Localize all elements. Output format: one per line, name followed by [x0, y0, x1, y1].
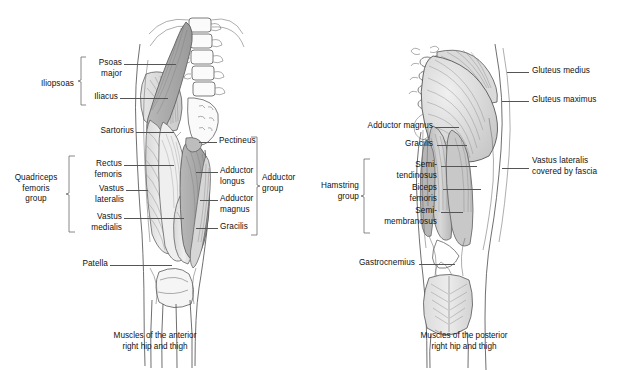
label-gluteus-medius: Gluteus medius [532, 66, 618, 77]
label-vastus-lateralis-fascia: Vastus lateralis covered by fascia [532, 156, 619, 177]
label-gracilis: Gracilis [220, 222, 268, 233]
figure-anterior-hip-thigh: Iliopsoas Quadriceps femoris group Adduc… [0, 0, 310, 370]
label-gastrocnemius: Gastrocnemius [333, 258, 415, 269]
leader-gracilis [196, 228, 218, 229]
group-label-adductor-group: Adductor group [262, 173, 310, 194]
leader-semimembranosus [441, 212, 463, 213]
bracket-quadriceps [66, 155, 76, 233]
leader-pectineus [199, 142, 217, 143]
label-adductor-longus: Adductor longus [220, 166, 268, 187]
gastrocnemius-muscle [423, 274, 472, 335]
figure-posterior-hip-thigh: Hamstring group Gluteus medius Gluteus m… [309, 0, 619, 370]
leader-gastrocnemius [419, 264, 455, 265]
label-vastus-lateralis: Vastus lateralis [80, 184, 124, 205]
leader-vastus-medialis [124, 218, 184, 219]
adductor-group-muscles [180, 138, 211, 268]
caption-posterior: Muscles of the posterior right hip and t… [349, 330, 579, 352]
leader-sartorius [136, 132, 174, 133]
leader-psoas-major [124, 64, 176, 65]
group-label-hamstring-group: Hamstring group [309, 181, 359, 202]
group-label-quadriceps-femoris-group: Quadriceps femoris group [8, 173, 64, 205]
label-pectineus: Pectineus [219, 136, 267, 147]
leader-adductor-magnus [435, 127, 459, 128]
leader-adductor-longus [196, 172, 218, 173]
leader-patella [110, 265, 172, 266]
leader-rectus-femoris [124, 165, 174, 166]
knee-patella [150, 268, 196, 308]
caption-anterior: Muscles of the anterior right hip and th… [40, 330, 270, 352]
leader-gluteus-medius [507, 72, 529, 73]
leader-semitendinosus [441, 166, 477, 167]
label-iliacus: Iliacus [82, 92, 118, 103]
leader-gluteus-maximus [502, 101, 529, 102]
label-semitendinosus: Semi- tendinosus [373, 160, 437, 181]
label-semimembranosus: Semi- membranosus [355, 206, 437, 227]
leader-vastus-lateralis-fascia [502, 168, 529, 169]
label-biceps-femoris: Biceps femoris [375, 183, 437, 204]
leader-biceps-femoris [443, 189, 481, 190]
label-psoas-major: Psoas major [86, 58, 122, 79]
label-vastus-medialis: Vastus medialis [80, 212, 122, 233]
label-adductor-magnus: Adductor magnus [220, 194, 268, 215]
leader-gracilis [437, 145, 467, 146]
label-gluteus-maximus: Gluteus maximus [532, 95, 618, 106]
group-label-iliopsoas: Iliopsoas [10, 79, 74, 90]
label-rectus-femoris: Rectus femoris [82, 159, 122, 180]
leader-iliacus [120, 98, 168, 99]
vertebral-column [189, 18, 215, 96]
label-patella: Patella [62, 259, 108, 270]
label-sartorius: Sartorius [70, 126, 134, 137]
label-adductor-magnus: Adductor magnus [343, 121, 433, 132]
leader-vastus-lateralis [126, 190, 148, 191]
leader-adductor-magnus [200, 200, 218, 201]
label-gracilis: Gracilis [369, 139, 433, 150]
